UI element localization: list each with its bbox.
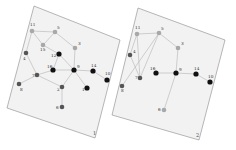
- node-label: 1: [82, 87, 85, 92]
- node-label: 9: [179, 67, 182, 72]
- node-label: 11: [135, 25, 141, 30]
- node-label: 10: [105, 71, 111, 76]
- graph-node: [153, 70, 158, 75]
- graph-node: [138, 76, 143, 81]
- node-label: 6: [158, 107, 161, 112]
- node-label: 15: [40, 47, 46, 52]
- graph-node: [60, 85, 65, 90]
- graph-node: [17, 82, 22, 87]
- node-label: 9: [77, 64, 80, 69]
- graph-node: [71, 67, 76, 72]
- node-label: 10: [208, 74, 214, 79]
- graph-node: [73, 46, 78, 51]
- node-label: 16: [150, 66, 156, 71]
- graph-node: [157, 31, 162, 36]
- graph-node: [30, 29, 35, 34]
- graph-node: [84, 85, 89, 90]
- node-label: 5: [57, 25, 60, 30]
- graph-diagram: 11515431216914107821611154378169141062: [0, 0, 236, 150]
- graph-node: [128, 53, 133, 58]
- node-label: 2: [57, 87, 60, 92]
- panel-label: 2: [196, 132, 199, 138]
- node-label: 14: [91, 63, 97, 68]
- graph-node: [162, 108, 167, 113]
- panel-1: 1151543121691410782161: [7, 6, 120, 138]
- node-label: 4: [133, 49, 136, 54]
- node-label: 8: [121, 88, 124, 93]
- node-label: 3: [181, 41, 184, 46]
- graph-node: [193, 71, 198, 76]
- graph-node: [90, 68, 95, 73]
- panel-2: 1154378169141062: [112, 8, 225, 140]
- node-label: 6: [56, 105, 59, 110]
- graph-node: [35, 73, 40, 78]
- graph-node: [135, 32, 140, 37]
- node-label: 4: [23, 56, 26, 61]
- graph-node: [60, 105, 65, 110]
- node-label: 11: [30, 22, 36, 27]
- node-label: 8: [20, 87, 23, 92]
- graph-node: [24, 51, 29, 56]
- panel-label: 1: [93, 130, 96, 136]
- node-label: 5: [161, 26, 164, 31]
- node-label: 7: [32, 73, 35, 78]
- node-label: 7: [135, 75, 138, 80]
- graph-node: [53, 30, 58, 35]
- panel-background: [7, 6, 120, 138]
- graph-node: [173, 70, 178, 75]
- graph-node: [104, 77, 109, 82]
- graph-node: [176, 46, 181, 51]
- node-label: 16: [47, 64, 53, 69]
- node-label: 12: [51, 53, 57, 58]
- graph-node: [56, 51, 61, 56]
- graph-node: [207, 79, 212, 84]
- node-label: 3: [78, 41, 81, 46]
- node-label: 14: [194, 66, 200, 71]
